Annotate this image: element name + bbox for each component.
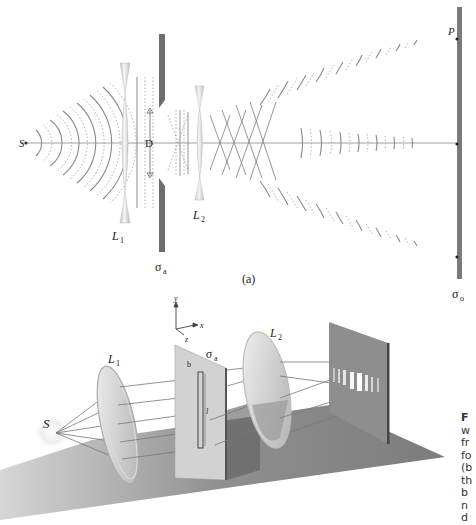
svg-text:a: a bbox=[214, 354, 218, 363]
aperture-label: σ bbox=[155, 260, 162, 274]
point-p bbox=[455, 37, 458, 40]
panel-a: L 1 D σ a L 2 bbox=[19, 7, 464, 303]
source-point bbox=[25, 142, 28, 145]
screen-label: σ bbox=[452, 287, 459, 301]
axes-triad bbox=[174, 302, 198, 335]
svg-text:1: 1 bbox=[116, 359, 120, 368]
svg-text:2: 2 bbox=[278, 333, 282, 342]
svg-text:o: o bbox=[460, 294, 464, 303]
panel-b: S L 1 b l σ a bbox=[0, 294, 445, 520]
aperture-screen-top bbox=[159, 34, 165, 108]
lens-l2-label: L bbox=[192, 208, 200, 222]
source-label-b: S bbox=[43, 416, 50, 431]
converging-wavefronts bbox=[210, 102, 276, 180]
svg-text:a: a bbox=[163, 267, 167, 276]
axis-z-label: z bbox=[184, 335, 189, 344]
svg-text:L: L bbox=[269, 326, 277, 340]
axis-x-label: x bbox=[199, 321, 204, 330]
svg-text:1: 1 bbox=[120, 236, 124, 245]
lens-l1-label: L bbox=[111, 229, 119, 243]
panel-a-label: (a) bbox=[242, 272, 255, 286]
source-label-a: S bbox=[19, 137, 25, 149]
aperture-plane bbox=[175, 345, 226, 480]
slit-width-label: b bbox=[187, 360, 191, 369]
axis-y-label: y bbox=[173, 294, 178, 303]
figure-caption: F w fr fo (b th b n d bbox=[461, 412, 476, 525]
aperture-width-label: D bbox=[145, 137, 153, 149]
svg-text:L: L bbox=[107, 352, 115, 366]
svg-text:2: 2 bbox=[201, 215, 205, 224]
aperture-screen-bottom bbox=[159, 178, 165, 252]
point-p-label: P bbox=[447, 25, 455, 37]
svg-text:σ: σ bbox=[206, 347, 213, 361]
